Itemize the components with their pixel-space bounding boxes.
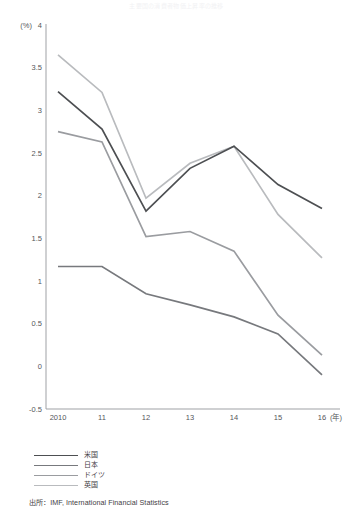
y-axis-tick-7: 0.5 — [32, 319, 42, 328]
chart-plot-area: 43.532.521.510.50-0.5 2010111213141516 (… — [0, 18, 353, 428]
legend-item-3[interactable]: 英国 — [34, 480, 234, 490]
y-axis-unit-label: (%) — [20, 21, 32, 30]
y-axis-tick-8: 0 — [38, 362, 42, 371]
legend-swatch-icon — [34, 465, 78, 466]
line-chart-svg: 43.532.521.510.50-0.5 2010111213141516 (… — [0, 18, 353, 428]
y-axis-tick-1: 3.5 — [32, 63, 42, 72]
series-line-英国 — [58, 55, 322, 258]
legend-label: 英国 — [84, 480, 98, 490]
y-axis-tick-6: 1 — [38, 277, 42, 286]
legend-label: ドイツ — [84, 470, 105, 480]
legend-item-0[interactable]: 米国 — [34, 450, 234, 460]
x-axis-tick-5: 15 — [274, 413, 282, 422]
y-axis-tick-4: 2 — [38, 191, 42, 200]
y-axis-tick-2: 3 — [38, 106, 42, 115]
y-axis-tick-9: -0.5 — [29, 405, 42, 414]
x-axis-tick-labels: 2010111213141516 — [50, 413, 327, 422]
y-axis-tick-0: 4 — [38, 21, 42, 30]
legend-swatch-icon — [34, 475, 78, 476]
y-axis-tick-labels: 43.532.521.510.50-0.5 — [29, 21, 42, 414]
y-axis-tick-5: 1.5 — [32, 234, 42, 243]
data-series-group — [58, 55, 322, 375]
legend-label: 米国 — [84, 450, 98, 460]
x-axis-tick-4: 14 — [230, 413, 238, 422]
legend-swatch-icon — [34, 485, 78, 486]
x-axis-tick-3: 13 — [186, 413, 194, 422]
y-axis-tick-3: 2.5 — [32, 149, 42, 158]
legend-swatch-icon — [34, 455, 78, 456]
legend-item-1[interactable]: 日本 — [34, 460, 234, 470]
x-axis-tick-6: 16 — [318, 413, 326, 422]
x-axis-tick-0: 2010 — [50, 413, 67, 422]
series-line-日本 — [58, 266, 322, 374]
legend-label: 日本 — [84, 460, 98, 470]
series-line-ドイツ — [58, 132, 322, 356]
legend-item-2[interactable]: ドイツ — [34, 470, 234, 480]
source-note: 出所：IMF, International Financial Statisti… — [29, 497, 169, 507]
x-axis-unit-label: (年) — [330, 412, 342, 422]
x-axis-tick-2: 12 — [142, 413, 150, 422]
series-line-米国 — [58, 92, 322, 211]
x-axis-tick-1: 11 — [98, 413, 106, 422]
chart-title: 主要国の消費者物価上昇率の推移 — [0, 1, 353, 10]
chart-legend: 米国日本ドイツ英国 — [34, 450, 234, 490]
